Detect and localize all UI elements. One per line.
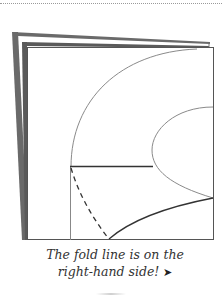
caption: The fold line is on the right-hand side!… (30, 246, 200, 281)
caption-line-1: The fold line is on the (30, 246, 200, 263)
arrow-right-icon: ➤ (163, 266, 172, 279)
caption-line-2-text: right-hand side! (58, 264, 160, 279)
caption-line-2: right-hand side! ➤ (30, 263, 200, 281)
bottom-divider (96, 293, 126, 295)
front-sheet (28, 48, 214, 240)
